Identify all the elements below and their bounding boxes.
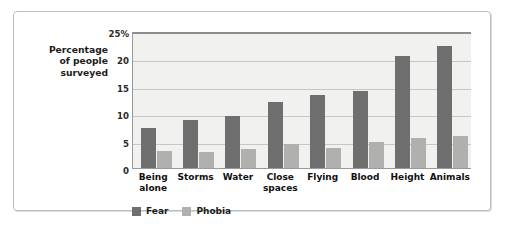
bar-fear xyxy=(268,102,283,168)
bar-group xyxy=(268,34,299,168)
bar-phobia xyxy=(284,144,299,168)
plot-area: 0510152025% xyxy=(132,32,471,169)
legend-label-fear: Fear xyxy=(146,206,168,216)
x-axis-category-labels: BeingaloneStormsWaterClosespacesFlyingBl… xyxy=(132,172,471,202)
bar-fear xyxy=(437,46,452,168)
bar-group xyxy=(310,34,341,168)
y-axis-title-line-2: of people xyxy=(24,55,108,66)
legend-swatch-phobia-icon xyxy=(182,207,191,216)
bar-phobia xyxy=(241,149,256,168)
bar-phobia xyxy=(411,138,426,168)
legend-swatch-fear-icon xyxy=(132,207,141,216)
bar-phobia xyxy=(369,142,384,168)
bar-group xyxy=(353,34,384,168)
bar-group xyxy=(395,34,426,168)
legend-label-phobia: Phobia xyxy=(196,206,231,216)
plot-wrapper: 0510152025% xyxy=(119,32,471,169)
bar-fear xyxy=(183,120,198,168)
bar-fear xyxy=(395,56,410,168)
y-axis-title: Percentage of people surveyed xyxy=(24,44,108,78)
bar-fear xyxy=(310,95,325,168)
x-axis-label-line: Animals xyxy=(422,172,478,183)
bars-layer xyxy=(133,34,471,168)
y-axis-tick-label: 20 xyxy=(117,56,133,66)
bar-phobia xyxy=(157,151,172,168)
y-axis-tick-label: 10 xyxy=(117,111,133,121)
y-axis-title-line-3: surveyed xyxy=(24,67,108,78)
bar-group xyxy=(141,34,172,168)
bar-fear xyxy=(141,128,156,168)
bar-phobia xyxy=(326,148,341,168)
bar-fear xyxy=(353,91,368,168)
chart-card: Percentage of people surveyed 0510152025… xyxy=(13,11,491,211)
bar-phobia xyxy=(199,152,214,168)
bar-group xyxy=(183,34,214,168)
bar-fear xyxy=(225,116,240,168)
bar-group xyxy=(437,34,468,168)
x-axis-label-line: alone xyxy=(125,183,181,194)
x-axis-label-line: spaces xyxy=(252,183,308,194)
legend: Fear Phobia xyxy=(132,206,231,216)
bar-group xyxy=(225,34,256,168)
x-axis-label: Animals xyxy=(422,172,478,183)
y-axis-tick-label: 25% xyxy=(108,29,133,39)
y-axis-tick-label: 5 xyxy=(123,139,133,149)
legend-item-fear: Fear xyxy=(132,206,168,216)
bar-phobia xyxy=(453,136,468,168)
y-axis-title-line-1: Percentage xyxy=(24,44,108,55)
legend-item-phobia: Phobia xyxy=(182,206,231,216)
y-axis-tick-label: 15 xyxy=(117,84,133,94)
